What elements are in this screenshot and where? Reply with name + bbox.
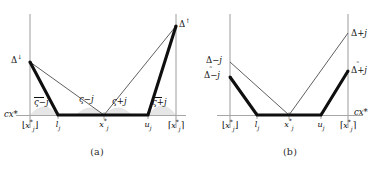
xtick-uj-b: uj xyxy=(314,121,328,129)
figure-container: Δ↓ Δ↑ ς−j ς−j ς+j ς+j cx* ⌊x*j⌋ lj xyxy=(0,0,387,175)
label-delta-minus-j: Δ−j xyxy=(206,56,222,65)
panel-b: Δ−j ˜Δ−j Δ+j ˜Δ+j cx* ⌊x*j⌋ lj x*j uj xyxy=(193,0,387,175)
label-sigma-plus: ς+j xyxy=(112,97,127,106)
panel-a: Δ↓ Δ↑ ς−j ς−j ς+j ς+j cx* ⌊x*j⌋ lj xyxy=(0,0,194,175)
thin-line-right xyxy=(289,33,348,115)
xtick-floor-b: ⌊x*j⌋ xyxy=(216,121,244,130)
label-cx-star-a: cx* xyxy=(4,110,18,119)
vertex-delta-up xyxy=(174,24,177,27)
vertex-delta-down xyxy=(28,60,31,63)
label-delta-tilde-plus-j: ˜Δ+j xyxy=(351,66,367,75)
label-sigma-bar-minus: ς−j xyxy=(34,98,49,107)
xtick-ceil-b: ⌈x*j⌉ xyxy=(334,121,362,130)
xtick-uj-a: uj xyxy=(141,121,155,129)
label-delta-tilde-minus-j: ˜Δ−j xyxy=(204,71,220,80)
xtick-floor-a: ⌊x*j⌋ xyxy=(16,121,44,130)
xtick-lj-a: lj xyxy=(51,121,65,129)
label-cx-star-b: cx* xyxy=(354,108,368,117)
xtick-xstar-b: x*j xyxy=(280,121,298,129)
vertex-delta-tilde-plus xyxy=(347,70,350,73)
label-sigma-minus: ς−j xyxy=(79,95,94,104)
caption-b: (b) xyxy=(193,146,387,157)
vertex-delta-tilde-minus xyxy=(229,76,232,79)
caption-a: (a) xyxy=(0,146,194,157)
label-delta-up: Δ↑ xyxy=(179,20,190,29)
xtick-xstar-a: x*j xyxy=(95,121,113,129)
xtick-ceil-a: ⌈x*j⌉ xyxy=(162,121,190,130)
label-sigma-bar-plus: ς+j xyxy=(152,98,167,107)
xtick-lj-b: lj xyxy=(250,121,264,129)
label-delta-plus-j: Δ+j xyxy=(351,29,367,38)
label-delta-down: Δ↓ xyxy=(11,56,22,65)
